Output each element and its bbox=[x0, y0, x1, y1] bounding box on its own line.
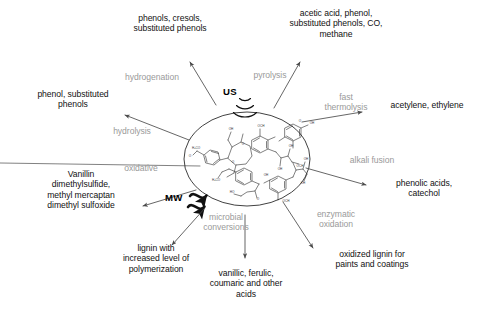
energy-label-microwave: MW bbox=[165, 192, 182, 203]
process-label-fast-thermolysis: fast thermolysis bbox=[315, 92, 377, 112]
svg-text:O: O bbox=[299, 119, 302, 123]
process-label-hydrolysis: hydrolysis bbox=[98, 126, 166, 136]
svg-text:OH: OH bbox=[310, 121, 315, 125]
process-label-enzymatic-oxidation: enzymatic oxidation bbox=[300, 209, 372, 229]
svg-text:OCH: OCH bbox=[258, 124, 265, 128]
process-label-pyrolysis: pyrolysis bbox=[240, 70, 300, 80]
svg-text:OH: OH bbox=[278, 167, 283, 171]
svg-text:OH: OH bbox=[304, 157, 309, 161]
product-label-enzymatic-oxidation: oxidized lignin for paints and coatings bbox=[312, 249, 432, 270]
process-label-alkali-fusion: alkali fusion bbox=[333, 155, 411, 165]
svg-text:O: O bbox=[189, 154, 192, 158]
svg-text:OH: OH bbox=[264, 173, 269, 177]
svg-text:OH: OH bbox=[289, 144, 294, 148]
svg-text:OCH: OCH bbox=[297, 164, 304, 168]
svg-text:O: O bbox=[257, 197, 260, 201]
svg-text:OCH: OCH bbox=[283, 199, 290, 203]
lignin-conversion-diagram: OH OCH O OH OH OH OCH H₃CO O H₃CO HO O O… bbox=[0, 0, 487, 313]
product-label-alkali-fusion: phenolic acids, catechol bbox=[372, 178, 476, 199]
svg-text:H₃CO: H₃CO bbox=[212, 178, 221, 182]
process-label-hydrogenation: hydrogenation bbox=[112, 72, 192, 82]
product-label-hydrogenation: phenols, cresols, substituted phenols bbox=[115, 13, 225, 34]
svg-text:O: O bbox=[242, 142, 245, 146]
product-label-depolymerization: lignin with increased level of polymeriz… bbox=[100, 243, 212, 274]
product-label-pyrolysis: acetic acid, phenol, substituted phenols… bbox=[272, 8, 400, 39]
product-label-hydrolysis: phenol, substituted phenols bbox=[18, 89, 128, 110]
product-label-oxidative: Vanillin dimethylsulfide, methyl mercapt… bbox=[22, 169, 140, 211]
product-label-fast-thermolysis: acetylene, ethylene bbox=[371, 100, 483, 110]
svg-text:H₃CO: H₃CO bbox=[192, 146, 201, 150]
svg-text:HO: HO bbox=[230, 190, 235, 194]
energy-label-ultrasound: US bbox=[223, 86, 237, 97]
svg-text:OH: OH bbox=[301, 181, 306, 185]
svg-text:OH: OH bbox=[229, 127, 234, 131]
process-label-microbial-conversions: microbial conversions bbox=[196, 212, 256, 232]
